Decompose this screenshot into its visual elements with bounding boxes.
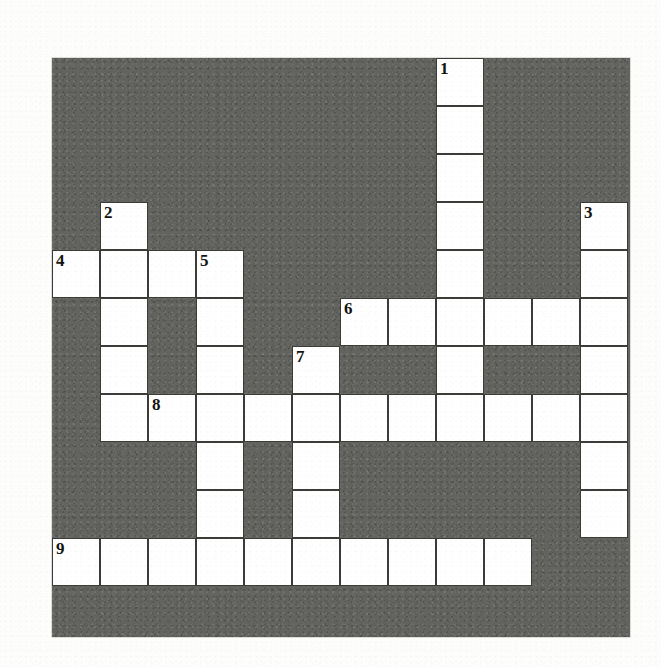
crossword-cell[interactable] — [100, 538, 148, 586]
crossword-cell[interactable] — [580, 394, 628, 442]
crossword-cell[interactable] — [580, 490, 628, 538]
crossword-board: 123456789 — [52, 58, 630, 637]
clue-number-6: 6 — [344, 299, 353, 319]
crossword-cell-numbered-9[interactable]: 9 — [52, 538, 100, 586]
crossword-cell[interactable] — [436, 154, 484, 202]
crossword-cell[interactable] — [196, 442, 244, 490]
crossword-cell[interactable] — [580, 298, 628, 346]
clue-number-7: 7 — [296, 347, 305, 367]
crossword-cell[interactable] — [196, 346, 244, 394]
crossword-cell[interactable] — [292, 538, 340, 586]
crossword-cell-numbered-7[interactable]: 7 — [292, 346, 340, 394]
crossword-cell[interactable] — [532, 394, 580, 442]
crossword-cell-numbered-8[interactable]: 8 — [148, 394, 196, 442]
crossword-cell[interactable] — [436, 250, 484, 298]
clue-number-3: 3 — [584, 203, 593, 223]
crossword-cell-numbered-5[interactable]: 5 — [196, 250, 244, 298]
crossword-cell-numbered-6[interactable]: 6 — [340, 298, 388, 346]
crossword-cell[interactable] — [436, 346, 484, 394]
crossword-cell[interactable] — [580, 346, 628, 394]
crossword-cell-numbered-4[interactable]: 4 — [52, 250, 100, 298]
crossword-cell[interactable] — [388, 298, 436, 346]
crossword-cell[interactable] — [100, 298, 148, 346]
crossword-cell[interactable] — [244, 538, 292, 586]
clue-number-9: 9 — [56, 539, 65, 559]
crossword-cell[interactable] — [436, 538, 484, 586]
crossword-cell[interactable] — [292, 394, 340, 442]
crossword-cell[interactable] — [436, 202, 484, 250]
crossword-cell[interactable] — [196, 394, 244, 442]
crossword-cell[interactable] — [148, 538, 196, 586]
crossword-cell-numbered-2[interactable]: 2 — [100, 202, 148, 250]
crossword-page: 123456789 — [0, 0, 661, 667]
crossword-grid[interactable]: 123456789 — [52, 58, 630, 637]
crossword-cell[interactable] — [100, 394, 148, 442]
crossword-cell[interactable] — [340, 538, 388, 586]
crossword-cell[interactable] — [436, 106, 484, 154]
crossword-cell[interactable] — [436, 298, 484, 346]
crossword-cell[interactable] — [484, 394, 532, 442]
crossword-cell[interactable] — [388, 394, 436, 442]
clue-number-2: 2 — [104, 203, 113, 223]
crossword-cell[interactable] — [244, 394, 292, 442]
crossword-cell[interactable] — [100, 346, 148, 394]
crossword-cell[interactable] — [484, 298, 532, 346]
crossword-cell[interactable] — [292, 442, 340, 490]
clue-number-8: 8 — [152, 395, 161, 415]
crossword-cell[interactable] — [148, 250, 196, 298]
crossword-cell-numbered-3[interactable]: 3 — [580, 202, 628, 250]
crossword-cell[interactable] — [196, 298, 244, 346]
crossword-cell[interactable] — [484, 538, 532, 586]
crossword-cell-numbered-1[interactable]: 1 — [436, 58, 484, 106]
crossword-cell[interactable] — [580, 250, 628, 298]
crossword-cell[interactable] — [436, 394, 484, 442]
crossword-cell[interactable] — [532, 298, 580, 346]
crossword-cell[interactable] — [100, 250, 148, 298]
clue-number-4: 4 — [56, 251, 65, 271]
crossword-cell[interactable] — [580, 442, 628, 490]
crossword-cell[interactable] — [196, 538, 244, 586]
crossword-cell[interactable] — [340, 394, 388, 442]
clue-number-1: 1 — [440, 59, 449, 79]
clue-number-5: 5 — [200, 251, 209, 271]
crossword-cell[interactable] — [388, 538, 436, 586]
crossword-cell[interactable] — [292, 490, 340, 538]
crossword-cell[interactable] — [196, 490, 244, 538]
